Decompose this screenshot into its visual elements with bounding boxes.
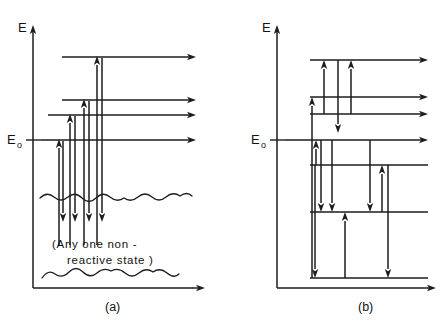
- figure-root: E E o: [0, 0, 443, 326]
- level-line: [62, 97, 196, 103]
- panel-b-levels: [285, 57, 428, 278]
- panel-a-annotation: (Any one non - reactive state ): [52, 238, 154, 266]
- panel-a-energy-axis-label: E: [18, 20, 27, 35]
- up-arrow: [309, 97, 315, 278]
- down-arrow: [367, 140, 373, 212]
- panel-a-levels: [41, 54, 196, 143]
- panel-a-e0-subscript: o: [17, 140, 22, 150]
- up-arrow: [321, 60, 327, 114]
- up-arrow: [348, 60, 354, 114]
- panel-b-reference-label: E o: [251, 132, 285, 150]
- up-arrow: [81, 99, 87, 245]
- down-arrow: [86, 101, 92, 222]
- panel-b-x-axis: [277, 285, 436, 291]
- panel-a-e0-label: E: [7, 132, 16, 147]
- panel-a-annotation-line-1: (Any one non -: [52, 238, 137, 250]
- panel-b-y-axis: [274, 25, 280, 288]
- up-arrow: [313, 140, 319, 165]
- down-arrow: [312, 165, 318, 278]
- up-arrow: [94, 56, 100, 245]
- panel-b-e0-label: E: [251, 132, 260, 147]
- panel-a: E E o: [7, 20, 205, 314]
- down-arrow: [72, 116, 78, 222]
- panel-a-y-axis: [30, 25, 36, 288]
- up-arrow: [342, 212, 348, 278]
- down-arrow: [60, 141, 66, 222]
- panel-a-wavy-line-lower: [42, 269, 179, 279]
- level-line: [285, 137, 428, 143]
- panel-a-reference-label: E o: [7, 132, 41, 150]
- level-line: [310, 111, 428, 117]
- down-arrow: [385, 165, 391, 278]
- up-arrow: [67, 114, 73, 245]
- energy-level-diagram: E E o: [0, 0, 443, 326]
- panel-a-x-axis: [33, 285, 205, 291]
- panel-a-caption: (a): [105, 300, 120, 314]
- panel-b-caption: (b): [358, 300, 373, 314]
- level-line: [62, 54, 196, 60]
- up-arrow: [379, 165, 385, 212]
- panel-a-annotation-line-2: reactive state ): [67, 254, 154, 266]
- panel-b: E E o: [251, 20, 436, 314]
- panel-b-energy-axis-label: E: [262, 20, 271, 35]
- down-arrow: [329, 140, 335, 212]
- level-line: [310, 94, 428, 100]
- down-arrow: [318, 140, 324, 212]
- panel-b-e0-subscript: o: [261, 140, 266, 150]
- level-line: [41, 137, 196, 143]
- level-line: [310, 57, 428, 63]
- up-arrow: [56, 139, 62, 245]
